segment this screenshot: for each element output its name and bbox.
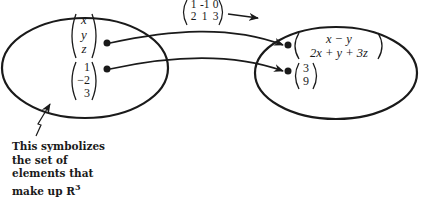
specific-image: 3 9	[300, 62, 312, 88]
matrix-entry: -1	[200, 0, 209, 10]
matrix-row-1: 1 -1 0	[190, 0, 219, 10]
general-vector-dot	[104, 40, 111, 47]
caption-line: This symbolizes	[12, 140, 105, 154]
vector-entry: y	[78, 28, 90, 43]
vector-entry: x	[78, 13, 90, 28]
matrix-entry: 1	[190, 0, 197, 10]
caption-text: make up R	[12, 184, 75, 196]
caption-superscript: 3	[75, 182, 81, 192]
specific-image-dot	[285, 68, 292, 75]
matrix-entry: 1	[200, 10, 209, 22]
matrix-row-2: 2 1 3	[190, 10, 219, 22]
image-entry: 9	[300, 75, 312, 88]
caption-line: make up R3	[12, 181, 105, 198]
general-vector: x y z	[78, 13, 90, 57]
caption-line: the set of	[12, 154, 105, 168]
specific-vector: 1 −2 3	[74, 61, 94, 100]
vector-entry: z	[78, 42, 90, 57]
matrix-entry: 3	[212, 10, 219, 22]
vector-entry: 3	[74, 87, 94, 100]
general-image: x − y 2x + y + 3z	[301, 32, 377, 60]
matrix-entry: 2	[190, 10, 197, 22]
specific-vector-dot	[104, 66, 111, 73]
image-entry: x − y	[301, 32, 377, 46]
image-entry: 2x + y + 3z	[301, 46, 377, 60]
general-image-dot	[285, 42, 292, 49]
matrix: 1 -1 0 2 1 3	[190, 0, 219, 22]
caption-line: elements that	[12, 167, 105, 181]
matrix-arrow	[228, 14, 258, 18]
mapping-arrow-general	[110, 32, 283, 45]
caption: This symbolizes the set of elements that…	[12, 140, 105, 198]
matrix-entry: 0	[212, 0, 219, 10]
